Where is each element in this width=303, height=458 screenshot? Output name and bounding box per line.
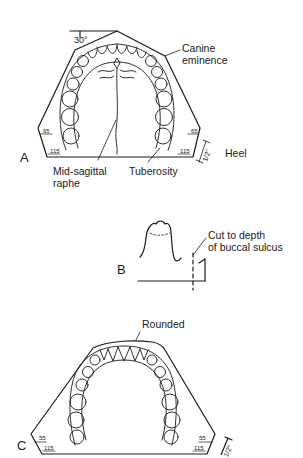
panel-a-dental-arch: [60, 44, 174, 154]
panel-b-section: [138, 221, 206, 290]
panel-c-left-base-measure: 115: [44, 445, 54, 451]
panel-a-right-side-measure: 65: [191, 128, 198, 134]
cut-depth-label-line2: of buccal sulcus: [208, 241, 283, 253]
angle-label: 30°: [74, 34, 88, 46]
rounded-label: Rounded: [142, 318, 185, 330]
panel-a-right-base-measure: 115: [180, 148, 190, 154]
panel-c-dental-arch: [68, 346, 180, 445]
panel-b-letter: B: [117, 262, 126, 277]
panel-c-letter: C: [17, 438, 26, 453]
tuberosity-label: Tuberosity: [129, 165, 178, 177]
panel-a-letter: A: [20, 150, 29, 165]
panel-c-right-side-measure: 55: [199, 435, 206, 441]
mid-sagittal-raphe-label-line2: raphe: [53, 177, 80, 189]
heel-label: Heel: [225, 147, 247, 159]
mid-sagittal-raphe-label-line1: Mid-sagittal: [53, 165, 107, 177]
cut-depth-label-line1: Cut to depth: [208, 229, 265, 241]
canine-eminence-label-line2: eminence: [182, 54, 228, 66]
panel-a-left-side-measure: 65: [43, 128, 50, 134]
panel-c-left-side-measure: 55: [39, 435, 46, 441]
canine-eminence-label-line1: Canine: [182, 42, 215, 54]
panel-a-left-base-measure: 115: [50, 148, 60, 154]
panel-c-right-base-measure: 115: [194, 445, 204, 451]
